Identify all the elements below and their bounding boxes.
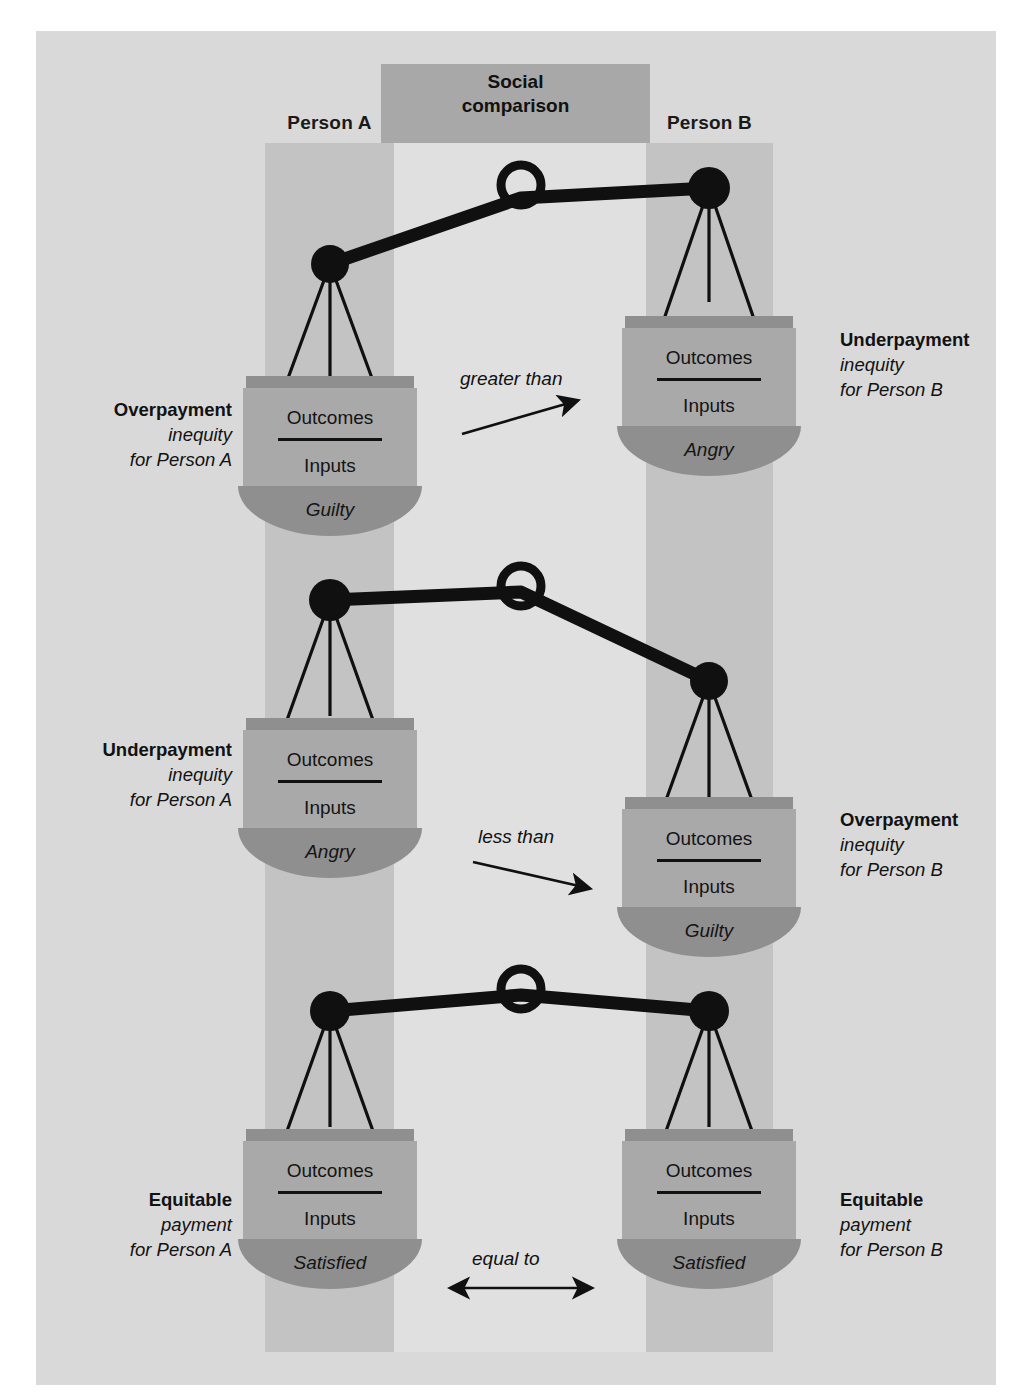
pan-emotion-label: Satisfied <box>622 1253 796 1272</box>
pan-numerator: Outcomes <box>243 1161 417 1180</box>
caption-subtitle-1: payment <box>52 1213 232 1238</box>
relation-label-row3: equal to <box>472 1248 540 1270</box>
pan-emotion-label: Satisfied <box>243 1253 417 1272</box>
pan-denominator: Inputs <box>243 1209 417 1228</box>
caption-title: Equitable <box>52 1188 232 1213</box>
pan-top-bar <box>246 1129 414 1141</box>
pan-top-bar <box>625 1129 793 1141</box>
pan-fraction-rule <box>657 1191 761 1194</box>
pan-denominator: Inputs <box>622 1209 796 1228</box>
caption-row3-left: Equitable payment for Person A <box>52 1188 232 1262</box>
pan-numerator: Outcomes <box>622 1161 796 1180</box>
caption-subtitle-2: for Person B <box>840 1238 1020 1263</box>
pan-row3-right: Outcomes Inputs Satisfied <box>622 1129 796 1269</box>
diagram-canvas: Social comparison Person A Person B <box>0 0 1024 1400</box>
caption-subtitle-1: payment <box>840 1213 1020 1238</box>
caption-row3-right: Equitable payment for Person B <box>840 1188 1020 1262</box>
pan-row3-left: Outcomes Inputs Satisfied <box>243 1129 417 1269</box>
pan-fraction-rule <box>278 1191 382 1194</box>
caption-subtitle-2: for Person A <box>52 1238 232 1263</box>
caption-title: Equitable <box>840 1188 1020 1213</box>
